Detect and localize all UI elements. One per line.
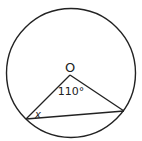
center-angle-label: 110° xyxy=(58,85,85,98)
center-label: O xyxy=(65,60,75,75)
diagram-svg: O 110° x xyxy=(0,0,142,141)
circle-diagram: O 110° x xyxy=(0,0,142,141)
unknown-angle-label: x xyxy=(34,109,41,120)
